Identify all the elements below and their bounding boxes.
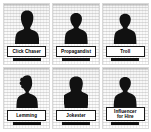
person-silhouette-icon [64, 10, 88, 44]
persona-card-influencer-for-hire[interactable]: Influencer for Hire [102, 67, 149, 129]
person-silhouette-icon [15, 74, 39, 108]
nameplate-label: Jokester [66, 113, 85, 118]
nameplate-base [111, 122, 139, 125]
avatar [4, 10, 49, 44]
nameplate-label: Click Chaser [12, 49, 40, 54]
persona-card-lemming[interactable]: Lemming [3, 67, 50, 129]
person-silhouette-icon [113, 10, 137, 44]
nameplate[interactable]: Propagandist [56, 46, 95, 57]
avatar [103, 74, 148, 108]
persona-card-grid: Click Chaser Propagandist Troll [0, 0, 151, 132]
avatar [103, 10, 148, 44]
person-silhouette-icon [113, 74, 137, 108]
nameplate[interactable]: Troll [106, 46, 145, 57]
nameplate-label: Influencer for Hire [114, 109, 136, 119]
nameplate[interactable]: Lemming [7, 110, 46, 121]
nameplate-base [62, 122, 90, 125]
avatar [4, 74, 49, 108]
person-silhouette-icon [64, 74, 88, 108]
nameplate-base [62, 58, 90, 61]
nameplate[interactable]: Click Chaser [7, 46, 46, 57]
persona-card-propagandist[interactable]: Propagandist [52, 3, 99, 65]
nameplate-base [13, 122, 41, 125]
nameplate-base [13, 58, 41, 61]
person-silhouette-icon [15, 10, 39, 44]
nameplate-label: Troll [120, 49, 130, 54]
avatar [53, 10, 98, 44]
persona-card-jokester[interactable]: Jokester [52, 67, 99, 129]
nameplate-base [111, 58, 139, 61]
nameplate-label: Propagandist [61, 49, 91, 54]
persona-card-click-chaser[interactable]: Click Chaser [3, 3, 50, 65]
nameplate-label: Lemming [16, 113, 37, 118]
nameplate[interactable]: Jokester [56, 110, 95, 121]
persona-card-troll[interactable]: Troll [102, 3, 149, 65]
avatar [53, 74, 98, 108]
nameplate[interactable]: Influencer for Hire [106, 107, 145, 121]
